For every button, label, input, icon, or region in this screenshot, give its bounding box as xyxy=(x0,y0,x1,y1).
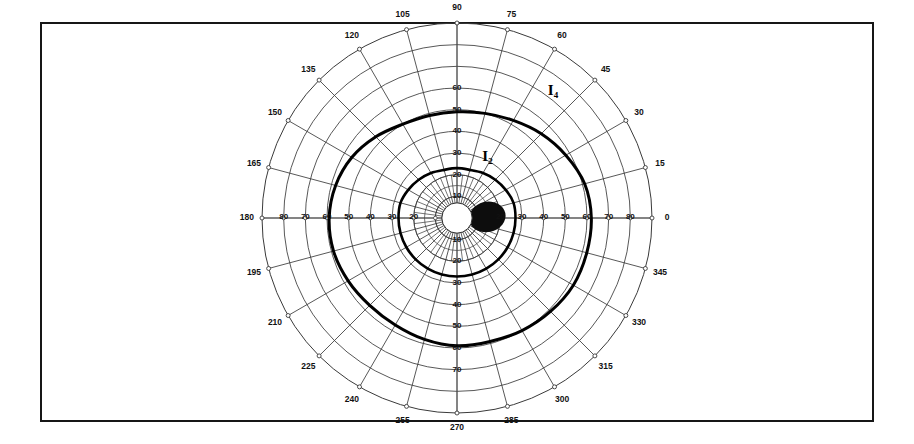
radial-label-up-50: 50 xyxy=(453,105,462,114)
radial-label-up-10: 10 xyxy=(453,191,462,200)
angle-label-45: 45 xyxy=(601,64,611,74)
radial-label-left-50: 50 xyxy=(344,212,353,221)
angle-label-270: 270 xyxy=(450,422,464,432)
angle-label-210: 210 xyxy=(268,317,282,327)
radial-label-down-30: 30 xyxy=(453,278,462,287)
radial-label-left-40: 40 xyxy=(366,212,375,221)
angle-label-225: 225 xyxy=(301,361,315,371)
angle-label-60: 60 xyxy=(557,30,567,40)
angle-label-180: 180 xyxy=(240,212,254,222)
radial-label-left-20: 20 xyxy=(409,212,418,221)
angle-label-135: 135 xyxy=(301,64,315,74)
radial-label-right-60: 60 xyxy=(583,212,592,221)
fixation-point xyxy=(442,203,472,233)
angle-label-15: 15 xyxy=(655,158,665,168)
radial-label-right-40: 40 xyxy=(539,212,548,221)
isopter-label-i2: I2 xyxy=(482,148,493,166)
radial-label-up-60: 60 xyxy=(453,83,462,92)
radial-label-up-40: 40 xyxy=(453,126,462,135)
angle-label-30: 30 xyxy=(634,107,644,117)
angle-label-255: 255 xyxy=(396,415,410,425)
angle-label-315: 315 xyxy=(599,361,613,371)
polar-plot-area: I4I2015304560759010512013515016518019521… xyxy=(0,0,914,444)
polar-chart-svg: I4I2015304560759010512013515016518019521… xyxy=(0,0,914,444)
angle-label-240: 240 xyxy=(345,394,359,404)
radial-label-down-40: 40 xyxy=(453,300,462,309)
angle-label-150: 150 xyxy=(268,107,282,117)
angle-label-330: 330 xyxy=(632,317,646,327)
angle-label-105: 105 xyxy=(396,9,410,19)
radial-label-right-50: 50 xyxy=(561,212,570,221)
radial-label-down-60: 60 xyxy=(453,343,462,352)
angle-label-120: 120 xyxy=(345,30,359,40)
radial-label-down-70: 70 xyxy=(453,365,462,374)
radial-label-up-20: 20 xyxy=(453,170,462,179)
angle-label-90: 90 xyxy=(452,2,462,12)
radial-label-right-20: 20 xyxy=(496,212,505,221)
radial-label-left-30: 30 xyxy=(388,212,397,221)
angle-label-300: 300 xyxy=(555,394,569,404)
isopter-label-i4: I4 xyxy=(548,82,559,100)
radial-label-left-70: 70 xyxy=(301,212,310,221)
angle-label-345: 345 xyxy=(653,267,667,277)
radial-label-up-30: 30 xyxy=(453,148,462,157)
angle-label-285: 285 xyxy=(504,415,518,425)
radial-label-right-30: 30 xyxy=(518,212,527,221)
angle-label-165: 165 xyxy=(247,158,261,168)
radial-label-left-80: 80 xyxy=(279,212,288,221)
perimetry-figure: I4I2015304560759010512013515016518019521… xyxy=(0,0,914,444)
radial-label-right-80: 80 xyxy=(626,212,635,221)
angle-label-195: 195 xyxy=(247,267,261,277)
radial-label-right-70: 70 xyxy=(604,212,613,221)
radial-label-down-50: 50 xyxy=(453,321,462,330)
radial-label-left-60: 60 xyxy=(323,212,332,221)
angle-label-0: 0 xyxy=(665,212,670,222)
angle-label-75: 75 xyxy=(507,9,517,19)
radial-label-down-20: 20 xyxy=(453,256,462,265)
radial-label-down-10: 10 xyxy=(453,235,462,244)
